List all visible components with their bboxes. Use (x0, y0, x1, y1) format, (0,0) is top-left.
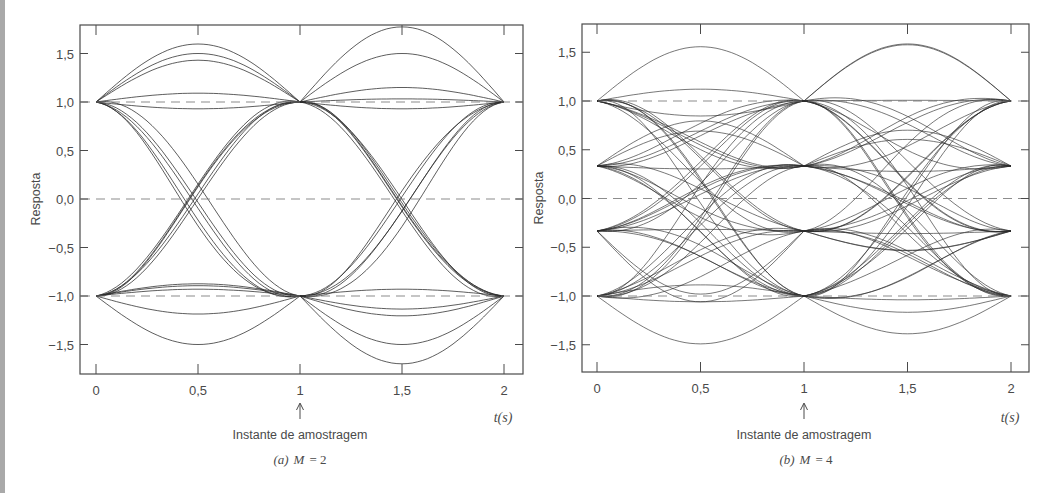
x-tick-label: 1 (800, 381, 807, 396)
y-tick-label: 0,0 (56, 192, 74, 207)
x-tick-label: 0 (593, 381, 600, 396)
caption-prefix: (a) (273, 452, 288, 467)
y-tick-label: 1,5 (558, 45, 576, 60)
x-tick-label: 2 (1007, 381, 1014, 396)
caption-value: = 4 (815, 452, 833, 467)
y-tick-label: −0,5 (550, 240, 576, 255)
x-tick-label: 0,5 (691, 381, 709, 396)
sampling-arrow-icon (297, 403, 304, 419)
y-tick-label: 1,0 (56, 95, 74, 110)
y-tick-label: −1,5 (48, 338, 74, 353)
eye-traces (96, 27, 504, 364)
caption-variable: M (293, 452, 306, 467)
figure: 1,5 1,0 0,5 0,0 −0,5 −1,0 −1,5 0 0,5 1 1… (0, 0, 1055, 493)
sampling-arrow-icon (801, 403, 808, 419)
caption-value: = 2 (309, 452, 326, 467)
x-tick-label: 2 (500, 383, 507, 398)
x-axis-unit-label: t(s) (1001, 410, 1020, 426)
y-tick-label: −1,0 (550, 289, 576, 304)
panel-b-eye-diagram-m4: 1,5 1,0 0,5 0,0 −0,5 −1,0 −1,5 0 0,5 1 1… (532, 24, 1029, 467)
y-tick-label: 0,5 (558, 143, 576, 158)
caption-variable: M (799, 452, 812, 467)
y-tick-labels: 1,5 1,0 0,5 0,0 −0,5 −1,0 −1,5 (48, 47, 74, 353)
x-tick-labels: 0 0,5 1 1,5 2 (92, 383, 507, 398)
sampling-instant-annotation: Instante de amostragem (233, 428, 368, 442)
panel-caption: (a)M= 2 (273, 452, 326, 467)
caption-prefix: (b) (779, 452, 794, 467)
y-tick-label: −1,0 (48, 289, 74, 304)
x-tick-label: 1 (296, 383, 303, 398)
y-tick-labels: 1,5 1,0 0,5 0,0 −0,5 −1,0 −1,5 (550, 45, 576, 353)
sampling-instant-annotation: Instante de amostragem (737, 428, 872, 442)
y-tick-label: −1,5 (550, 338, 576, 353)
eye-traces (597, 44, 1011, 344)
y-axis-label: Resposta (532, 172, 546, 225)
x-tick-label: 0 (92, 383, 99, 398)
panel-caption: (b)M= 4 (779, 452, 833, 467)
x-tick-labels: 0 0,5 1 1,5 2 (593, 381, 1014, 396)
y-tick-label: 0,0 (558, 192, 576, 207)
x-tick-label: 1,5 (393, 383, 411, 398)
y-tick-label: 0,5 (56, 144, 74, 159)
panel-a-eye-diagram-m2: 1,5 1,0 0,5 0,0 −0,5 −1,0 −1,5 0 0,5 1 1… (29, 25, 523, 467)
y-axis-label: Resposta (29, 173, 43, 226)
y-tick-label: 1,5 (56, 47, 74, 62)
x-tick-label: 0,5 (189, 383, 207, 398)
x-tick-label: 1,5 (898, 381, 916, 396)
y-tick-label: −0,5 (48, 241, 74, 256)
x-axis-unit-label: t(s) (494, 410, 513, 426)
y-tick-label: 1,0 (558, 94, 576, 109)
